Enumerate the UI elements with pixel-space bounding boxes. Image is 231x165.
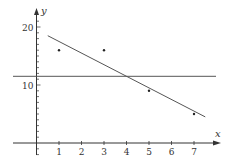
x-tick-label: 7 bbox=[191, 147, 197, 157]
plot-lines bbox=[13, 36, 216, 117]
data-point bbox=[103, 49, 105, 51]
x-tick-label: 1 bbox=[56, 147, 62, 157]
x-tick-label: 2 bbox=[79, 147, 85, 157]
data-point bbox=[193, 113, 195, 115]
x-tick-label: 5 bbox=[146, 147, 152, 157]
y-axis-label: y bbox=[40, 5, 47, 16]
scatter-chart: 12345671020 x y bbox=[0, 0, 231, 165]
data-point bbox=[58, 49, 60, 51]
x-axis-label: x bbox=[215, 128, 221, 139]
y-tick-label: 20 bbox=[22, 23, 34, 33]
axes bbox=[13, 8, 221, 155]
x-tick-label: 3 bbox=[101, 147, 107, 157]
data-point bbox=[148, 90, 150, 92]
x-tick-label: 4 bbox=[124, 147, 130, 157]
y-tick-label: 10 bbox=[22, 81, 34, 91]
axis-ticks: 12345671020 bbox=[22, 21, 197, 157]
x-tick-label: 6 bbox=[169, 147, 175, 157]
x-axis-arrow-icon bbox=[213, 141, 221, 146]
data-points bbox=[58, 49, 195, 115]
plot-area: 12345671020 x y bbox=[0, 0, 231, 165]
y-axis-arrow-icon bbox=[34, 8, 39, 15]
